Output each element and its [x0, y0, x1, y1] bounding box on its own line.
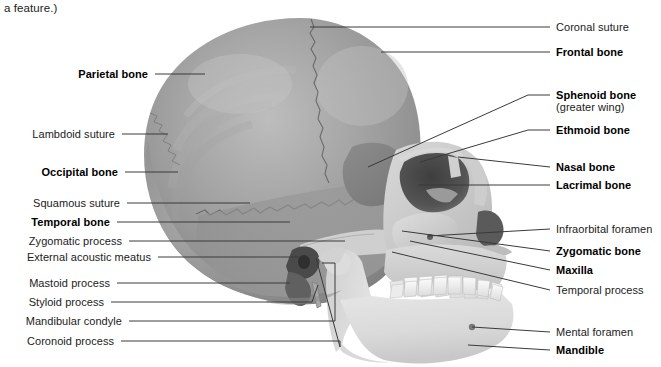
label-text: Occipital bone: [42, 166, 119, 178]
label-styloid-process: Styloid process: [0, 296, 104, 308]
label-external-acoustic-meatus: External acoustic meatus: [0, 251, 151, 263]
label-text: Zygomatic process: [29, 235, 122, 247]
label-frontal-bone: Frontal bone: [556, 46, 623, 58]
label-lambdoid-suture: Lambdoid suture: [0, 128, 115, 140]
label-text: Lambdoid suture: [32, 128, 115, 140]
label-text: Lacrimal bone: [556, 179, 631, 191]
label-mandible: Mandible: [556, 344, 604, 356]
label-text: External acoustic meatus: [27, 251, 151, 263]
label-text: Sphenoid bone: [556, 89, 636, 101]
label-nasal-bone: Nasal bone: [556, 161, 615, 173]
label-occipital-bone: Occipital bone: [0, 166, 118, 178]
label-temporal-process: Temporal process: [556, 284, 644, 296]
label-text: Temporal bone: [31, 216, 110, 228]
label-temporal-bone: Temporal bone: [0, 216, 110, 228]
orbit-eye-socket: [400, 150, 470, 213]
label-parietal-bone: Parietal bone: [0, 68, 148, 80]
label-mental-foramen: Mental foramen: [556, 326, 633, 338]
label-text: Mastoid process: [29, 277, 110, 289]
label-text: Zygomatic bone: [556, 245, 641, 257]
skull-lateral-diagram: a feature.): [0, 0, 661, 367]
label-lacrimal-bone: Lacrimal bone: [556, 179, 631, 191]
label-text: Mandible: [556, 344, 604, 356]
label-text: Mandibular condyle: [26, 315, 122, 327]
label-text: Coronal suture: [556, 21, 629, 33]
label-subtext: (greater wing): [556, 101, 636, 113]
label-coronal-suture: Coronal suture: [556, 21, 629, 33]
label-ethmoid-bone: Ethmoid bone: [556, 124, 630, 136]
label-coronoid-process: Coronoid process: [0, 335, 114, 347]
label-text: Mental foramen: [556, 326, 633, 338]
label-text: Ethmoid bone: [556, 124, 630, 136]
label-text: Squamous suture: [33, 197, 120, 209]
label-text: Styloid process: [29, 296, 104, 308]
label-maxilla: Maxilla: [556, 264, 593, 276]
label-text: Nasal bone: [556, 161, 615, 173]
mental-foramen-hole: [469, 324, 475, 330]
label-mandibular-condyle: Mandibular condyle: [0, 315, 122, 327]
infraorbital-foramen-hole: [427, 234, 433, 240]
label-zygomatic-process: Zygomatic process: [0, 235, 122, 247]
label-infraorbital-foramen: Infraorbital foramen: [556, 223, 652, 235]
label-text: Frontal bone: [556, 46, 623, 58]
label-text: Maxilla: [556, 264, 593, 276]
label-sphenoid-bone: Sphenoid bone(greater wing): [556, 89, 636, 113]
nasal-aperture: [476, 210, 504, 246]
label-text: Temporal process: [556, 284, 644, 296]
label-zygomatic-bone: Zygomatic bone: [556, 245, 641, 257]
label-mastoid-process: Mastoid process: [0, 277, 110, 289]
label-text: Infraorbital foramen: [556, 223, 652, 235]
label-text: Parietal bone: [78, 68, 148, 80]
label-text: Coronoid process: [27, 335, 114, 347]
label-squamous-suture: Squamous suture: [0, 197, 120, 209]
